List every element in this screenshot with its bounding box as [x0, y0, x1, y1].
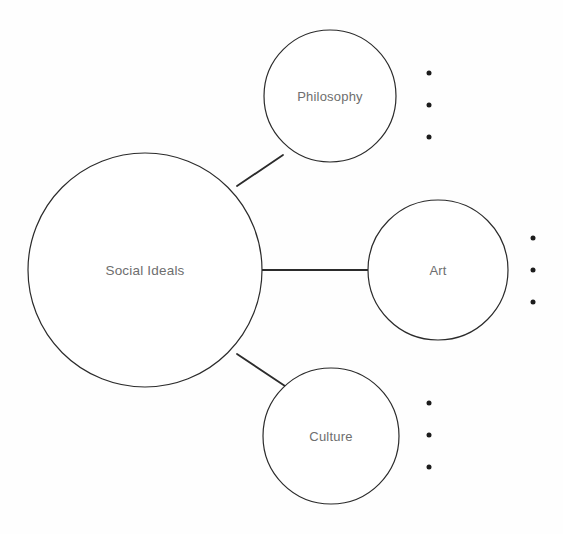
bullet-dot	[427, 401, 432, 406]
connector-root-to-philosophy	[237, 155, 283, 186]
diagram-canvas	[0, 0, 563, 534]
bullet-dot	[427, 433, 432, 438]
connector-root-to-culture	[237, 354, 285, 386]
node-circle-art[interactable]	[368, 200, 508, 340]
bullet-dot	[427, 135, 432, 140]
bullet-dot	[427, 103, 432, 108]
node-circle-culture[interactable]	[263, 368, 399, 504]
bullet-dot	[427, 71, 432, 76]
node-circle-philosophy[interactable]	[264, 30, 396, 162]
bullet-dot	[531, 236, 536, 241]
node-circle-social-ideals[interactable]	[28, 153, 262, 387]
bubble-map-diagram: Social Ideals Philosophy Art Culture	[0, 0, 563, 534]
bullet-dot	[427, 465, 432, 470]
bullet-dot	[531, 268, 536, 273]
bullet-dot	[531, 300, 536, 305]
